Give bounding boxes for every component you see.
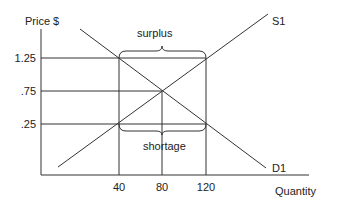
x-tick-80: 80: [156, 181, 168, 193]
supply-demand-chart: Price $ Quantity S1 D1 surplus shortage …: [0, 0, 343, 212]
demand-label: D1: [272, 162, 286, 174]
x-axis-label: Quantity: [275, 185, 316, 197]
shortage-label: shortage: [143, 140, 186, 152]
y-tick-0-75: .75: [21, 85, 36, 97]
surplus-label: surplus: [137, 27, 173, 39]
supply-label: S1: [272, 15, 285, 27]
y-tick-1-25: 1.25: [15, 52, 36, 64]
x-tick-40: 40: [113, 181, 125, 193]
y-tick-0-25: .25: [21, 118, 36, 130]
y-axis-label: Price $: [25, 15, 59, 27]
x-tick-120: 120: [197, 181, 215, 193]
surplus-brace: [119, 46, 206, 58]
